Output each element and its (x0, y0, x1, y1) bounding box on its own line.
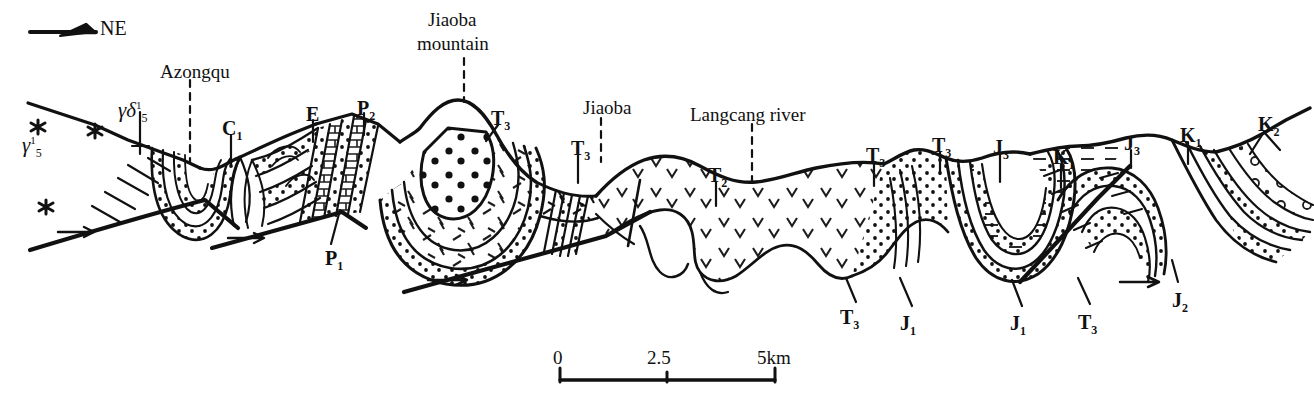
unit-sub: 3 (945, 146, 951, 160)
unit-base: K (1053, 146, 1069, 168)
scale-tick-2-5: 2.5 (647, 348, 671, 367)
place-label-jiaoba: Jiaoba (583, 98, 632, 117)
unit-base: K (1258, 113, 1274, 135)
unit-base: J (1172, 289, 1182, 311)
unit-sub: 3 (1091, 323, 1097, 337)
unit-label-t3-jiaoba-mtn: T3 (491, 108, 510, 132)
unit-sub: 1 (910, 324, 916, 338)
scale-tick-5km: 5km (757, 348, 791, 367)
place-label-jiaoba-mountain-line2: mountain (417, 34, 489, 53)
unit-label-granite-g5: γ15 (22, 135, 42, 159)
g5-subscript: 5 (36, 146, 42, 160)
unit-sub: 1 (1069, 158, 1075, 172)
unit-sub: 2 (1274, 125, 1280, 139)
unit-sub: 1 (1196, 136, 1202, 150)
unit-label-k1-right: K1 (1180, 125, 1202, 149)
unit-label-p1: P1 (325, 248, 343, 272)
unit-base: J (1010, 312, 1020, 334)
fault-arrow-j2 (1120, 277, 1159, 287)
unit-label-t3-jiaoba: T3 (571, 138, 590, 162)
unit-base: C (222, 117, 236, 139)
scale-bar (560, 368, 775, 382)
unit-label-t3-lower-right: T3 (1078, 312, 1097, 336)
place-label-langcang-river: Langcang river (690, 105, 806, 124)
orientation-label-ne: NE (100, 18, 127, 38)
place-label-azongqu: Azongqu (160, 62, 230, 81)
unit-base: T (1078, 311, 1091, 333)
unit-base: P (357, 97, 369, 119)
unit-sub: 3 (584, 149, 590, 163)
unit-sub: 3 (1134, 144, 1140, 158)
unit-base: T (866, 144, 879, 166)
unit-label-j1-right: J1 (1010, 313, 1026, 337)
unit-label-j2: J2 (1172, 290, 1188, 314)
unit-sub: 1 (236, 129, 242, 143)
unit-sub: 2 (369, 109, 375, 123)
unit-sub: 3 (1003, 148, 1009, 162)
gd5-subscript: 5 (142, 111, 148, 125)
unit-base: T (840, 306, 853, 328)
g5-superscript: 1 (30, 134, 36, 146)
unit-base: J (993, 136, 1003, 158)
cross-section-figure: NE Azongqu Jiaoba mountain Jiaoba Langca… (0, 0, 1314, 420)
unit-sub: 1 (337, 259, 343, 273)
delta-glyph: δ (126, 98, 136, 122)
unit-base: T (571, 137, 584, 159)
unit-base: K (1180, 124, 1196, 146)
unit-base: P (325, 247, 337, 269)
unit-base: J (1124, 132, 1134, 154)
gd5-superscript: 1 (136, 99, 142, 111)
unit-label-j3-right: J3 (1124, 133, 1140, 157)
north-east-arrow-icon (30, 24, 96, 36)
unit-label-granodiorite-gd5: γδ15 (118, 100, 148, 124)
unit-label-p2: P2 (357, 98, 375, 122)
unit-base: E (306, 103, 319, 125)
unit-label-t3-ridge-right: T3 (932, 135, 951, 159)
scale-tick-0: 0 (553, 348, 563, 367)
unit-sub: 3 (853, 318, 859, 332)
unit-label-t3-lower-left: T3 (840, 307, 859, 331)
unit-label-j3-left: J3 (993, 137, 1009, 161)
unit-label-t2: T2 (708, 165, 727, 189)
unit-label-k2: K2 (1258, 114, 1280, 138)
fault-azongqu (212, 212, 366, 248)
unit-base: T (932, 134, 945, 156)
unit-sub: 3 (504, 119, 510, 133)
unit-base: J (900, 312, 910, 334)
unit-sub: 1 (1020, 324, 1026, 338)
unit-sub: 3 (879, 156, 885, 170)
unit-label-j1-left: J1 (900, 313, 916, 337)
unit-base: T (491, 107, 504, 129)
unit-label-c1: C1 (222, 118, 242, 142)
unit-base: T (708, 164, 721, 186)
unit-sub: 2 (721, 176, 727, 190)
unit-label-t3-ridge-left: T3 (866, 145, 885, 169)
unit-sub: 2 (1182, 301, 1188, 315)
unit-label-e: E (306, 104, 319, 128)
unit-label-k1-left: K1 (1053, 147, 1075, 171)
place-label-jiaoba-mountain-line1: Jiaoba (428, 10, 477, 29)
